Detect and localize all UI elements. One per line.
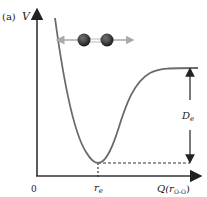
y-axis-label: V — [22, 10, 31, 23]
min-label: re — [94, 182, 103, 195]
panel-label: (a) — [2, 11, 16, 22]
o2-molecule-icon — [60, 34, 130, 47]
depth-label: De — [181, 110, 194, 123]
potential-energy-diagram: (a) V 0 re De Q(rO-O) — [0, 0, 207, 197]
origin-label: 0 — [31, 184, 37, 194]
x-axis-label: Q(rO-O) — [157, 183, 190, 195]
